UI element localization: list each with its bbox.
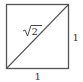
square-diagram: 2 1 1 [0, 0, 83, 82]
bottom-side-label: 1 [35, 71, 41, 82]
diagonal-radicand: 2 [32, 26, 38, 37]
right-side-label: 1 [73, 32, 79, 43]
